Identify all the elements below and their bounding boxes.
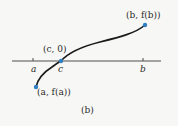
ivt-diagram: a c b (c, 0) (b, f(b)) (a, f(a)) (b) [0, 0, 178, 126]
label-b-fb: (b, f(b)) [126, 10, 161, 20]
point-b-fb [143, 23, 147, 27]
figure-caption: (b) [81, 105, 94, 115]
point-c-0 [59, 59, 63, 63]
function-curve [36, 25, 145, 87]
label-a-fa: (a, f(a)) [37, 87, 71, 97]
tick-label-c: c [58, 64, 63, 74]
tick-label-b: b [140, 64, 146, 74]
label-c-0: (c, 0) [43, 44, 67, 54]
tick-label-a: a [31, 64, 36, 74]
